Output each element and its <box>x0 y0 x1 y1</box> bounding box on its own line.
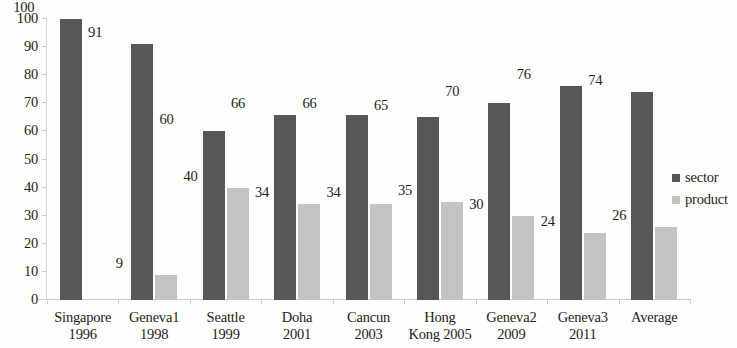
bar-sector <box>60 19 82 300</box>
y-axis-tick-mark <box>42 215 47 216</box>
x-axis-tick-mark <box>333 299 334 304</box>
bar-sector <box>631 92 653 300</box>
bar-value-label: 60 <box>150 112 184 126</box>
bar-group <box>203 18 249 300</box>
x-axis-tick-mark <box>476 299 477 304</box>
bar-value-label: 34 <box>317 185 351 199</box>
y-axis: 1009080706050403020100 <box>0 18 46 300</box>
y-axis-tick-label: 10 <box>24 264 38 278</box>
legend-swatch-icon <box>672 196 680 204</box>
y-axis-tick-mark <box>42 18 47 19</box>
bar-product <box>370 204 392 300</box>
bar-sector <box>417 117 439 300</box>
y-axis-tick-mark <box>42 74 47 75</box>
y-axis-tick-label: 30 <box>24 208 38 222</box>
bar-product <box>655 227 677 300</box>
bar-product <box>227 188 249 300</box>
x-axis-tick-mark <box>619 299 620 304</box>
x-axis-category-label: Average <box>613 309 696 326</box>
bar-value-label: 66 <box>221 96 255 110</box>
bar-value-label: 65 <box>364 98 398 112</box>
y-axis-tick-mark <box>42 46 47 47</box>
bar-group <box>488 18 534 300</box>
bar-value-label: 74 <box>578 73 612 87</box>
bar-group <box>60 18 106 300</box>
bar-group <box>274 18 320 300</box>
x-axis-tick-mark <box>190 299 191 304</box>
bar-sector <box>346 115 368 300</box>
y-axis-tick-mark <box>42 102 47 103</box>
bar-group <box>560 18 606 300</box>
bar-value-label: 91 <box>78 25 112 39</box>
plot-area <box>47 18 690 300</box>
bar-group <box>631 18 677 300</box>
y-axis-tick-mark <box>42 159 47 160</box>
bar-sector <box>560 86 582 300</box>
bar-value-label: 100 <box>7 0 41 14</box>
y-axis-tick-label: 80 <box>24 67 38 81</box>
bar-product <box>441 202 463 300</box>
x-axis-tick-mark <box>118 299 119 304</box>
bar-sector <box>274 115 296 300</box>
bar-product <box>155 275 177 300</box>
x-axis-tick-mark <box>547 299 548 304</box>
y-axis-tick-mark <box>42 130 47 131</box>
y-axis-tick-label: 50 <box>24 152 38 166</box>
x-axis-tick-mark <box>261 299 262 304</box>
bar-group <box>346 18 392 300</box>
bar-value-label: 26 <box>602 208 636 222</box>
legend-item-sector[interactable]: sector <box>672 170 737 192</box>
bar-product <box>298 204 320 300</box>
x-axis-tick-mark <box>404 299 405 304</box>
bar-value-label: 34 <box>245 185 279 199</box>
legend-label: sector <box>685 170 718 185</box>
bar-value-label: 30 <box>459 197 493 211</box>
y-axis-tick-mark <box>42 243 47 244</box>
y-axis-tick-mark <box>42 271 47 272</box>
x-axis-tick-mark <box>47 299 48 304</box>
bar-value-label: 35 <box>388 183 422 197</box>
category-label-line: 2011 <box>541 326 624 343</box>
bar-value-label: 24 <box>531 214 565 228</box>
bar-value-label: 66 <box>293 96 327 110</box>
y-axis-tick-label: 0 <box>31 292 38 306</box>
bar-group <box>131 18 177 300</box>
x-axis-tick-mark <box>690 299 691 304</box>
y-axis-tick-label: 70 <box>24 95 38 109</box>
bar-value-label: 70 <box>435 84 469 98</box>
category-label-line: Average <box>613 309 696 326</box>
bar-sector <box>203 131 225 300</box>
bar-value-label: 9 <box>102 256 136 270</box>
y-axis-tick-label: 60 <box>24 123 38 137</box>
bar-product <box>512 216 534 300</box>
legend-label: product <box>685 192 728 207</box>
bar-value-label: 76 <box>507 67 541 81</box>
y-axis-tick-mark <box>42 187 47 188</box>
legend-item-product[interactable]: product <box>672 192 737 214</box>
y-axis-tick-label: 20 <box>24 236 38 250</box>
bar-chart: 1009080706050403020100 Singapore1996Gene… <box>0 0 737 348</box>
y-axis-tick-label: 40 <box>24 180 38 194</box>
y-axis-tick-label: 90 <box>24 39 38 53</box>
bar-group <box>417 18 463 300</box>
bar-product <box>584 233 606 300</box>
legend: sectorproduct <box>672 170 737 214</box>
bar-value-label: 40 <box>174 169 208 183</box>
legend-swatch-icon <box>672 174 680 182</box>
